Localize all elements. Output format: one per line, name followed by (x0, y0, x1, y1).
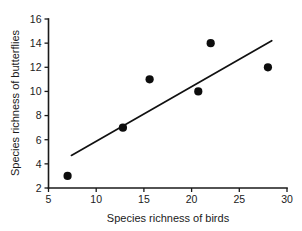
y-tick-label: 14 (30, 37, 42, 49)
x-axis: 51015202530 (46, 188, 293, 205)
y-axis-tick-labels: 246810121416 (30, 13, 42, 194)
y-axis-title: Species richness of butterflies (9, 29, 21, 176)
y-axis: 246810121416 (30, 13, 49, 194)
x-axis-tick-labels: 51015202530 (46, 193, 293, 205)
data-point-marker (264, 63, 272, 71)
data-point-marker (63, 172, 71, 180)
x-tick-label: 25 (233, 193, 245, 205)
y-tick-label: 16 (30, 13, 42, 25)
scatter-chart: 246810121416 51015202530 Species richnes… (0, 0, 302, 231)
y-tick-label: 8 (36, 109, 42, 121)
plot-area: 246810121416 51015202530 Species richnes… (0, 0, 302, 231)
data-point-marker (119, 124, 127, 132)
x-axis-title: Species richness of birds (107, 212, 230, 224)
x-tick-label: 20 (186, 193, 198, 205)
x-tick-label: 30 (281, 193, 293, 205)
x-tick-label: 15 (138, 193, 150, 205)
y-tick-label: 2 (36, 182, 42, 194)
y-tick-label: 10 (30, 85, 42, 97)
y-tick-label: 12 (30, 61, 42, 73)
y-tick-label: 4 (36, 158, 42, 170)
data-point-marker (146, 75, 154, 83)
y-tick-label: 6 (36, 134, 42, 146)
x-tick-label: 10 (90, 193, 102, 205)
data-points (63, 39, 272, 180)
regression-line (71, 41, 271, 156)
x-tick-label: 5 (46, 193, 52, 205)
trend-line (71, 41, 271, 156)
data-point-marker (194, 87, 202, 95)
data-point-marker (207, 39, 215, 47)
